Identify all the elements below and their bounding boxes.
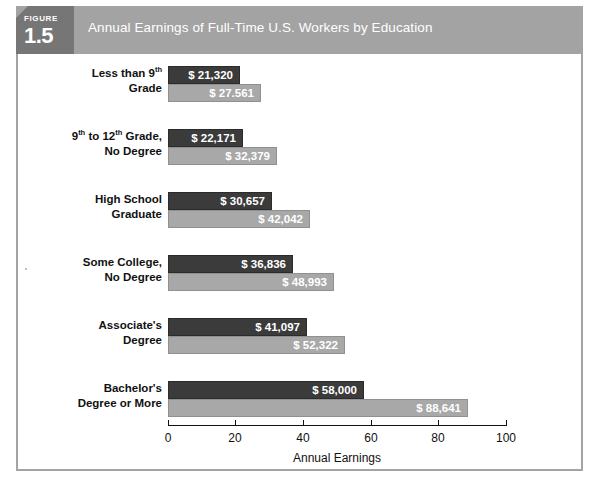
- bar-dark-some-college-no-degree: $ 36,836: [168, 255, 293, 273]
- x-axis-tick-label-40: 40: [283, 431, 323, 445]
- bar-value-light: $ 42,042: [258, 213, 303, 225]
- bar-dark-9th-to-12th-grade-no-degree: $ 22,171: [168, 129, 243, 147]
- category-label-line1: Associate's: [99, 319, 162, 331]
- bar-light-bachelors-degree-or-more: $ 88,641: [168, 399, 468, 417]
- x-axis-tick-label-20: 20: [215, 431, 255, 445]
- x-axis-tick: [168, 420, 169, 426]
- figure-container: FIGURE 1.5 Annual Earnings of Full-Time …: [0, 0, 606, 487]
- bar-value-dark: $ 21,320: [188, 69, 233, 81]
- category-label-line2: Grade: [129, 82, 162, 94]
- bar-dark-bachelors-degree-or-more: $ 58,000: [168, 381, 364, 399]
- category-label-line2: Graduate: [112, 208, 163, 220]
- category-label-associates-degree: Associate's Degree: [0, 318, 162, 348]
- bar-light-some-college-no-degree: $ 48,993: [168, 273, 334, 291]
- bar-dark-associates-degree: $ 41,097: [168, 318, 307, 336]
- bar-value-dark: $ 22,171: [191, 132, 236, 144]
- bar-light-less-than-9th-grade: $ 27.561: [168, 84, 261, 102]
- category-label-less-than-9th-grade: Less than 9th Grade: [0, 66, 162, 96]
- category-label-line2: No Degree: [104, 271, 162, 283]
- x-axis: 0 20 40 60 80 100 Annual Earnings: [0, 425, 606, 487]
- category-label-tail: Grade,: [122, 130, 162, 142]
- bar-value-light: $ 27.561: [209, 87, 254, 99]
- category-label-line1: Less than 9: [92, 67, 155, 79]
- bar-value-light: $ 48,993: [282, 276, 327, 288]
- category-label-line2: Degree: [123, 334, 162, 346]
- x-axis-tick-label-80: 80: [418, 431, 458, 445]
- bar-value-light: $ 52,322: [293, 339, 338, 351]
- figure-tag-word: FIGURE: [24, 14, 74, 23]
- category-label-bachelors-degree-or-more: Bachelor's Degree or More: [0, 381, 162, 411]
- bar-light-associates-degree: $ 52,322: [168, 336, 345, 354]
- bar-value-light: $ 88,641: [416, 402, 461, 414]
- category-label-9th-to-12th-grade-no-degree: 9th to 12th Grade, No Degree: [0, 129, 162, 159]
- x-axis-tick-label-60: 60: [351, 431, 391, 445]
- x-axis-tick: [235, 420, 236, 426]
- ordinal-suffix: th: [155, 65, 162, 74]
- category-label-mid: to 12: [85, 130, 115, 142]
- x-axis-tick-label-100: 100: [486, 431, 526, 445]
- x-axis-line: [168, 425, 506, 426]
- category-label-some-college-no-degree: Some College, No Degree: [0, 255, 162, 285]
- category-label-line1: Some College,: [83, 256, 162, 268]
- bar-dark-less-than-9th-grade: $ 21,320: [168, 66, 240, 84]
- figure-number-tag: FIGURE 1.5: [16, 6, 74, 54]
- bar-value-dark: $ 36,836: [241, 258, 286, 270]
- bar-light-high-school-graduate: $ 42,042: [168, 210, 310, 228]
- category-label-line2: Degree or More: [78, 397, 162, 409]
- x-axis-tick: [303, 420, 304, 426]
- bar-value-dark: $ 30,657: [220, 195, 265, 207]
- bar-light-9th-to-12th-grade-no-degree: $ 32,379: [168, 147, 277, 165]
- bar-value-dark: $ 58,000: [312, 384, 357, 396]
- category-label-line2: No Degree: [104, 145, 162, 157]
- bar-value-light: $ 32,379: [225, 150, 270, 162]
- category-label-high-school-graduate: High School Graduate: [0, 192, 162, 222]
- x-axis-tick: [371, 420, 372, 426]
- category-label-line1: Bachelor's: [104, 382, 162, 394]
- bar-value-dark: $ 41,097: [255, 321, 300, 333]
- x-axis-title: Annual Earnings: [168, 451, 506, 465]
- x-axis-tick: [438, 420, 439, 426]
- x-axis-tick-label-0: 0: [148, 431, 188, 445]
- figure-title: Annual Earnings of Full-Time U.S. Worker…: [88, 20, 433, 35]
- bar-dark-high-school-graduate: $ 30,657: [168, 192, 272, 210]
- category-label-line1: High School: [95, 193, 162, 205]
- figure-tag-number: 1.5: [24, 24, 74, 47]
- x-axis-tick: [506, 420, 507, 426]
